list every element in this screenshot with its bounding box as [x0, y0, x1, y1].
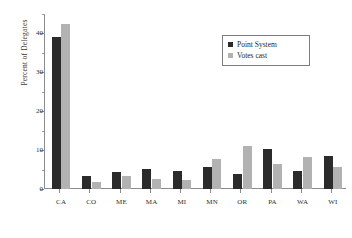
legend-label: Votes cast [237, 51, 267, 60]
bar-pa-votes-cast [273, 164, 282, 189]
bar-group: MI [173, 14, 192, 189]
x-tick [89, 189, 90, 193]
y-axis-line [44, 14, 45, 189]
bar-group: CO [82, 14, 101, 189]
bar-co-votes-cast [92, 182, 101, 189]
x-tick [180, 189, 181, 193]
x-tick [331, 189, 332, 193]
dark-square-swatch-icon [228, 42, 233, 47]
bar-group: MN [203, 14, 222, 189]
x-tick [240, 189, 241, 193]
y-tick-minor [42, 53, 44, 54]
y-tick-minor [42, 170, 44, 171]
bar-wa-point-system [293, 171, 302, 189]
bar-chart: Percent of Delegates 010203040 CACOMEMAM… [0, 0, 352, 238]
legend-item-point-system: Point System [228, 39, 304, 50]
bar-ca-votes-cast [61, 24, 70, 189]
bar-group: WI [324, 14, 343, 189]
bar-group: CA [52, 14, 71, 189]
bar-pa-point-system [263, 149, 272, 189]
bar-ma-votes-cast [152, 179, 161, 189]
bar-wa-votes-cast [303, 157, 312, 189]
y-tick-label: 0 [25, 185, 43, 193]
bar-me-votes-cast [122, 176, 131, 189]
x-tick [59, 189, 60, 193]
bar-wi-votes-cast [333, 167, 342, 189]
bar-mn-point-system [203, 167, 212, 189]
bar-mn-votes-cast [212, 159, 221, 189]
bar-mi-point-system [173, 171, 182, 189]
y-tick-minor [42, 92, 44, 93]
bar-ca-point-system [52, 37, 61, 189]
y-tick-label: 40 [25, 29, 43, 37]
x-tick [210, 189, 211, 193]
bar-me-point-system [112, 172, 121, 189]
y-axis-title: Percent of Delegates [20, 0, 29, 123]
y-tick-label: 10 [25, 146, 43, 154]
legend-label: Point System [237, 40, 277, 49]
bar-co-point-system [82, 176, 91, 189]
bar-or-point-system [233, 174, 242, 189]
x-tick [301, 189, 302, 193]
x-tick [120, 189, 121, 193]
x-tick [150, 189, 151, 193]
x-tick [271, 189, 272, 193]
y-tick-minor [42, 131, 44, 132]
light-square-swatch-icon [228, 53, 233, 58]
y-tick-label: 20 [25, 107, 43, 115]
y-tick-label: 30 [25, 68, 43, 76]
bar-wi-point-system [324, 156, 333, 189]
bar-group: ME [112, 14, 131, 189]
bar-mi-votes-cast [182, 180, 191, 189]
x-tick-label: WI [313, 198, 352, 206]
legend: Point System Votes cast [222, 35, 310, 66]
bar-or-votes-cast [243, 146, 252, 189]
y-tick-minor [42, 14, 44, 15]
bar-ma-point-system [142, 169, 151, 189]
bar-group: MA [142, 14, 161, 189]
legend-item-votes-cast: Votes cast [228, 50, 304, 61]
